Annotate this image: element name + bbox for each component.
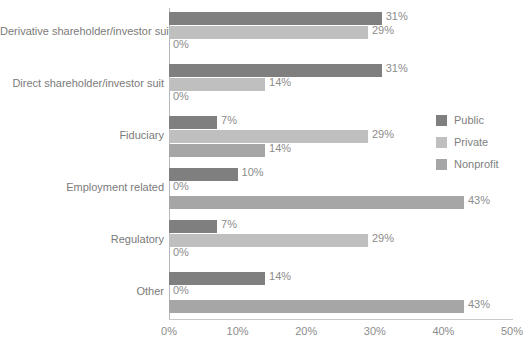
bar-row: 14% [0, 272, 532, 285]
bar-value-label: 31% [386, 62, 408, 75]
chart-legend: PublicPrivateNonprofit [436, 110, 499, 176]
bar-row: 0% [0, 182, 532, 195]
bar-value-label: 7% [221, 114, 237, 127]
bar-row: 0% [0, 286, 532, 299]
legend-label: Private [454, 136, 488, 148]
legend-label: Nonprofit [454, 158, 499, 170]
bar-row: 43% [0, 196, 532, 209]
bar-public [169, 116, 217, 129]
bar-value-label: 29% [372, 24, 394, 37]
bar-row: 31% [0, 12, 532, 25]
bar-private [169, 234, 368, 247]
bar-private [169, 26, 368, 39]
bar-value-label: 31% [386, 10, 408, 23]
bar-value-label: 14% [269, 76, 291, 89]
bar-value-label: 0% [173, 90, 189, 103]
bar-value-label: 0% [173, 284, 189, 297]
bar-public [169, 12, 382, 25]
bar-row: 0% [0, 92, 532, 105]
legend-item[interactable]: Private [436, 132, 499, 152]
bar-value-label: 29% [372, 232, 394, 245]
bar-nonprofit [169, 196, 464, 209]
bar-row: 31% [0, 64, 532, 77]
bar-nonprofit [169, 144, 265, 157]
x-axis-tick-label: 40% [432, 325, 454, 337]
bar-row: 7% [0, 220, 532, 233]
bar-value-label: 14% [269, 270, 291, 283]
x-axis-tick-label: 50% [501, 325, 523, 337]
bar-row: 29% [0, 234, 532, 247]
legend-item[interactable]: Public [436, 110, 499, 130]
bar-value-label: 43% [468, 194, 490, 207]
legend-item[interactable]: Nonprofit [436, 154, 499, 174]
x-axis-tick-label: 20% [295, 325, 317, 337]
bar-row: 14% [0, 78, 532, 91]
bar-row: 0% [0, 40, 532, 53]
x-axis-tick-label: 10% [227, 325, 249, 337]
legend-swatch-icon [436, 159, 447, 170]
bar-row: 0% [0, 248, 532, 261]
bar-value-label: 43% [468, 298, 490, 311]
bar-value-label: 14% [269, 142, 291, 155]
legend-swatch-icon [436, 137, 447, 148]
bar-nonprofit [169, 300, 464, 313]
bar-value-label: 29% [372, 128, 394, 141]
x-axis-line [169, 319, 513, 320]
bar-value-label: 0% [173, 246, 189, 259]
bar-chart: Derivative shareholder/investor suitDire… [0, 0, 532, 350]
x-axis-tick-label: 0% [161, 325, 177, 337]
bar-public [169, 220, 217, 233]
bar-value-label: 10% [242, 166, 264, 179]
bar-value-label: 0% [173, 180, 189, 193]
bar-row: 43% [0, 300, 532, 313]
bar-value-label: 0% [173, 38, 189, 51]
legend-swatch-icon [436, 115, 447, 126]
bar-row: 29% [0, 26, 532, 39]
legend-label: Public [454, 114, 484, 126]
x-axis-tick-label: 30% [364, 325, 386, 337]
bar-value-label: 7% [221, 218, 237, 231]
